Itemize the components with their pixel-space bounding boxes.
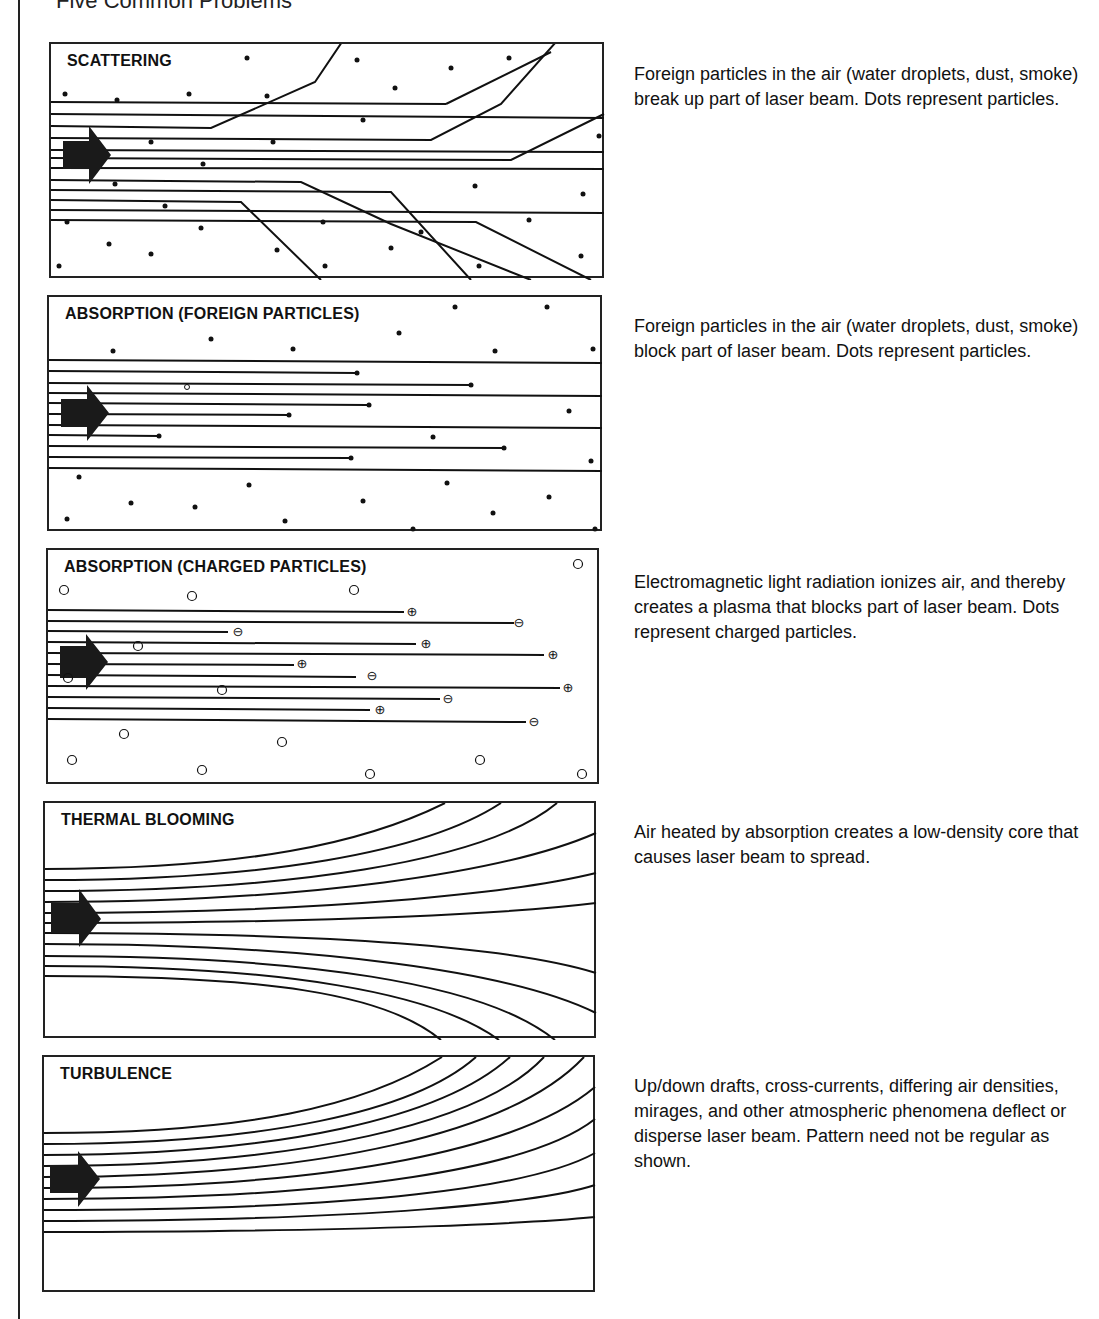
panel-thermal-blooming: THERMAL BLOOMING	[43, 801, 596, 1038]
svg-text:⊕: ⊕	[548, 647, 559, 662]
panel-title: ABSORPTION (CHARGED PARTICLES)	[64, 558, 367, 576]
svg-text:⊕: ⊕	[407, 604, 418, 619]
turbulence-diagram	[44, 1057, 597, 1294]
description-turbulence: Up/down drafts, cross-currents, differin…	[634, 1074, 1094, 1174]
panel-title: ABSORPTION (FOREIGN PARTICLES)	[65, 305, 360, 323]
panel-title: THERMAL BLOOMING	[61, 811, 235, 829]
page-heading: Five Common Problems	[56, 0, 292, 14]
svg-text:⊖: ⊖	[514, 615, 525, 630]
panel-scattering: SCATTERING	[49, 42, 604, 278]
laser-beam-arrow-icon	[63, 126, 111, 184]
absorption-charged-diagram: ⊕⊖⊖⊕⊕ ⊕⊖⊕⊖⊕⊖	[48, 550, 601, 786]
svg-text:⊕: ⊕	[297, 656, 308, 671]
description-absorption-foreign: Foreign particles in the air (water drop…	[634, 314, 1094, 364]
panel-turbulence: TURBULENCE	[42, 1055, 595, 1292]
scattering-diagram	[51, 44, 606, 280]
panel-title: TURBULENCE	[60, 1065, 172, 1083]
left-margin-rule	[18, 0, 20, 1319]
laser-beam-arrow-icon	[51, 889, 101, 947]
description-thermal-blooming: Air heated by absorption creates a low-d…	[634, 820, 1094, 870]
svg-text:⊖: ⊖	[529, 714, 540, 729]
svg-text:⊕: ⊕	[375, 702, 386, 717]
description-absorption-charged: Electromagnetic light radiation ionizes …	[634, 570, 1094, 645]
svg-text:⊕: ⊕	[421, 636, 432, 651]
description-scattering: Foreign particles in the air (water drop…	[634, 62, 1094, 112]
svg-text:⊖: ⊖	[443, 691, 454, 706]
panel-absorption-charged: ⊕⊖⊖⊕⊕ ⊕⊖⊕⊖⊕⊖ ABSORPTION (CHARGED PARTICL…	[46, 548, 599, 784]
svg-text:⊕: ⊕	[563, 680, 574, 695]
svg-text:⊖: ⊖	[367, 668, 378, 683]
thermal-blooming-diagram	[45, 803, 598, 1040]
svg-text:⊖: ⊖	[233, 624, 244, 639]
panel-absorption-foreign: ABSORPTION (FOREIGN PARTICLES)	[47, 295, 602, 531]
absorption-foreign-diagram	[49, 297, 604, 533]
panel-title: SCATTERING	[67, 52, 172, 70]
